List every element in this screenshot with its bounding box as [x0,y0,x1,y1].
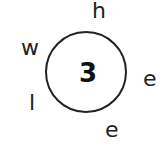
center-number: 3 [72,58,104,88]
letter-e-bottom: e [105,119,119,141]
letter-h: h [92,0,106,22]
letter-w: w [21,37,39,59]
letter-l: l [29,92,35,114]
letter-e-right: e [143,68,157,90]
